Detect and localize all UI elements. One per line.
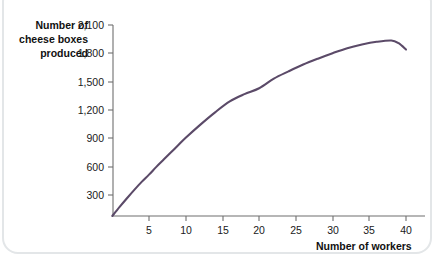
total-product-curve: [112, 40, 406, 216]
x-tick-labels: 5 10 15 20 25 30 35 40: [146, 224, 412, 236]
y-tick-marks: [108, 25, 113, 195]
y-axis-title-line-1: Number of: [36, 19, 89, 31]
x-tick-label-10: 10: [180, 224, 192, 236]
x-tick-label-20: 20: [253, 224, 265, 236]
production-function-chart: 2,100 1,800 1,500 1,200 900 600 300 5 10…: [0, 0, 444, 262]
y-tick-label-1500: 1,500: [78, 76, 104, 88]
y-tick-label-300: 300: [86, 189, 104, 201]
x-tick-marks: [149, 216, 406, 221]
x-axis-title: Number of workers: [316, 240, 412, 252]
y-axis-title: Number of cheese boxes produced: [19, 19, 88, 59]
y-axis-title-line-2: cheese boxes: [19, 33, 88, 45]
y-tick-label-600: 600: [86, 161, 104, 173]
y-axis-title-line-3: produced: [40, 47, 88, 59]
x-tick-label-40: 40: [400, 224, 412, 236]
x-tick-label-15: 15: [217, 224, 229, 236]
y-tick-label-1200: 1,200: [78, 104, 104, 116]
x-tick-label-30: 30: [327, 224, 339, 236]
x-tick-label-25: 25: [290, 224, 302, 236]
y-tick-label-900: 900: [86, 132, 104, 144]
figure-card: 2,100 1,800 1,500 1,200 900 600 300 5 10…: [0, 0, 444, 262]
x-tick-label-5: 5: [146, 224, 152, 236]
x-tick-label-35: 35: [363, 224, 375, 236]
